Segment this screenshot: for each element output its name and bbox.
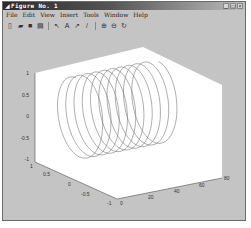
y-tick: 0.5 bbox=[43, 171, 50, 177]
z-tick: 1 bbox=[26, 70, 29, 76]
plot3-axes[interactable]: 1 0.5 0 -0.5 -1 1 0.5 0 -0.5 -1 0 20 40 … bbox=[0, 0, 251, 228]
y-tick: 0 bbox=[68, 181, 71, 187]
x-tick: 60 bbox=[199, 182, 205, 188]
z-tick: -1 bbox=[25, 156, 30, 162]
x-tick: 0 bbox=[120, 200, 123, 206]
z-axis-ticks: 1 0.5 0 -0.5 -1 bbox=[20, 70, 29, 162]
x-tick: 20 bbox=[148, 194, 154, 200]
x-tick: 80 bbox=[224, 175, 230, 181]
y-tick: 1 bbox=[30, 163, 33, 169]
y-tick: -1 bbox=[107, 200, 112, 206]
x-tick: 40 bbox=[174, 188, 180, 194]
z-tick: 0.5 bbox=[22, 92, 29, 98]
z-tick: -0.5 bbox=[20, 135, 29, 141]
y-tick: -0.5 bbox=[81, 191, 90, 197]
z-tick: 0 bbox=[26, 113, 29, 119]
